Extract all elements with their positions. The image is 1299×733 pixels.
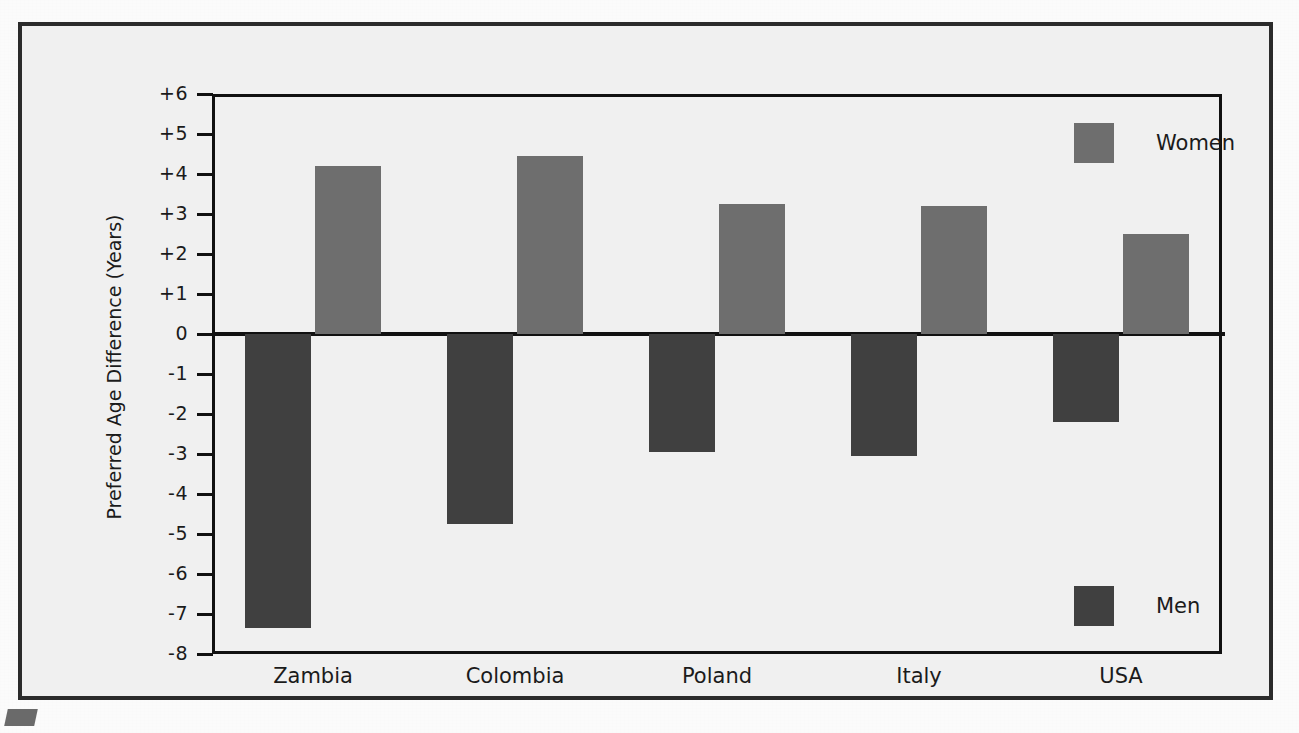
bar-women-zambia [315, 166, 381, 334]
x-axis-label-zambia: Zambia [213, 664, 413, 688]
scan-smudge-artifact [4, 709, 38, 726]
bar-women-colombia [517, 156, 583, 334]
y-axis-tick-label: +2 [122, 242, 188, 264]
x-axis-label-italy: Italy [819, 664, 1019, 688]
y-axis-tick [197, 333, 213, 336]
y-axis-tick [197, 133, 213, 136]
y-axis-tick-label: -1 [122, 362, 188, 384]
y-axis-tick [197, 413, 213, 416]
legend-item-women[interactable]: Women [1074, 123, 1235, 163]
bar-men-zambia [245, 334, 311, 628]
y-axis-tick-label: -3 [122, 442, 188, 464]
y-axis-tick [197, 613, 213, 616]
y-axis-tick-label: -8 [122, 642, 188, 664]
bar-women-italy [921, 206, 987, 334]
y-axis-tick-label: 0 [122, 322, 188, 344]
y-axis-tick [197, 453, 213, 456]
bar-men-colombia [447, 334, 513, 524]
y-axis-tick-label: -4 [122, 482, 188, 504]
y-axis-tick-label: +5 [122, 122, 188, 144]
figure-page: Preferred Age Difference (Years) +6+5+4+… [0, 0, 1299, 733]
y-axis-tick [197, 653, 213, 656]
x-axis-label-usa: USA [1021, 664, 1221, 688]
legend-swatch-men [1074, 586, 1114, 626]
bar-men-italy [851, 334, 917, 456]
y-axis-tick-label: +1 [122, 282, 188, 304]
y-axis-tick-label: -5 [122, 522, 188, 544]
figure-frame: Preferred Age Difference (Years) +6+5+4+… [18, 22, 1273, 700]
legend-swatch-women [1074, 123, 1114, 163]
legend-label-men: Men [1156, 594, 1200, 618]
y-axis-tick [197, 293, 213, 296]
y-axis-tick-label: +4 [122, 162, 188, 184]
y-axis-tick [197, 493, 213, 496]
y-axis-tick [197, 373, 213, 376]
y-axis-tick [197, 173, 213, 176]
y-axis-tick [197, 213, 213, 216]
y-axis-tick [197, 253, 213, 256]
legend-label-women: Women [1156, 131, 1235, 155]
y-axis-tick-label: +6 [122, 82, 188, 104]
legend-item-men[interactable]: Men [1074, 586, 1200, 626]
x-axis-label-colombia: Colombia [415, 664, 615, 688]
y-axis-tick-label: -7 [122, 602, 188, 624]
y-axis-tick [197, 573, 213, 576]
bar-men-usa [1053, 334, 1119, 422]
y-axis-tick-label: -2 [122, 402, 188, 424]
x-axis-label-poland: Poland [617, 664, 817, 688]
y-axis-tick-label: -6 [122, 562, 188, 584]
y-axis-tick [197, 93, 213, 96]
bar-women-poland [719, 204, 785, 334]
bar-women-usa [1123, 234, 1189, 334]
y-axis-tick [197, 533, 213, 536]
y-axis-tick-label: +3 [122, 202, 188, 224]
bar-men-poland [649, 334, 715, 452]
